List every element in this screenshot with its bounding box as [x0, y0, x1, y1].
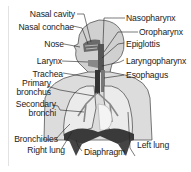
label-right-lung: Right lung: [27, 146, 65, 155]
label-primary-bronchus: Primary bronchus: [16, 79, 51, 97]
label-diaphragm: Diaphragm: [84, 148, 125, 157]
label-secondary-bronchi-line2: bronchi: [16, 109, 56, 118]
label-esophagus: Esophagus: [126, 71, 168, 80]
label-bronchioles: Bronchioles: [14, 135, 58, 144]
label-nose: Nose: [44, 40, 64, 49]
label-nasal-cavity: Nasal cavity: [30, 10, 75, 19]
label-secondary-bronchi: Secondary bronchi: [16, 100, 56, 118]
label-epiglottis: Epiglottis: [126, 40, 160, 49]
trachea-shape: [95, 70, 100, 94]
label-oropharynx: Oropharynx: [139, 28, 183, 37]
label-nasal-conchae: Nasal conchae: [18, 23, 74, 32]
label-left-lung: Left lung: [137, 141, 169, 150]
label-larynx: Larynx: [37, 57, 62, 66]
label-nasopharynx: Nasopharynx: [126, 14, 176, 23]
label-primary-bronchus-line2: bronchus: [16, 88, 51, 97]
label-laryngopharynx: Laryngopharynx: [126, 57, 186, 66]
pharynx-shape: [98, 44, 104, 72]
